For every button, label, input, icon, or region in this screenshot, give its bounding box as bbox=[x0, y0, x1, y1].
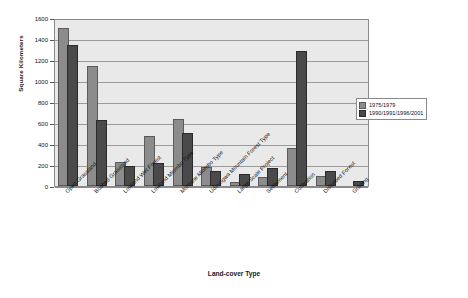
y-tick-label: 1600 bbox=[20, 16, 48, 22]
y-tick-label: 200 bbox=[20, 163, 48, 169]
legend-item: 1975/1979 bbox=[359, 101, 423, 109]
chart-legend: 1975/1979 1990/1991/1996/2001 bbox=[356, 98, 427, 120]
bar-group bbox=[198, 20, 227, 186]
bar bbox=[353, 181, 364, 186]
bar-group bbox=[55, 20, 84, 186]
y-tick-label: 1200 bbox=[20, 58, 48, 64]
bar bbox=[239, 174, 250, 186]
y-tick-label: 600 bbox=[20, 121, 48, 127]
legend-swatch-icon bbox=[359, 102, 366, 109]
bar bbox=[124, 166, 135, 186]
bar-group bbox=[284, 20, 313, 186]
bar-group bbox=[141, 20, 170, 186]
y-tick-label: 1400 bbox=[20, 37, 48, 43]
bars-layer bbox=[55, 20, 368, 186]
legend-item: 1990/1991/1996/2001 bbox=[359, 109, 423, 117]
y-tick-label: 800 bbox=[20, 100, 48, 106]
legend-item-label: 1990/1991/1996/2001 bbox=[369, 110, 423, 116]
legend-item-label: 1975/1979 bbox=[369, 102, 395, 108]
y-tick-label: 0 bbox=[20, 184, 48, 190]
bar bbox=[96, 120, 107, 186]
bar-group bbox=[170, 20, 199, 186]
y-tick-label: 1000 bbox=[20, 79, 48, 85]
bar bbox=[325, 171, 336, 186]
y-tick-label: 400 bbox=[20, 142, 48, 148]
y-tick-mark bbox=[50, 187, 54, 188]
gridline bbox=[55, 187, 368, 188]
bar bbox=[182, 133, 193, 186]
plot-area bbox=[54, 19, 369, 187]
bar bbox=[67, 45, 78, 186]
bar bbox=[153, 163, 164, 186]
bar-group bbox=[313, 20, 342, 186]
x-axis-title: Land-cover Type bbox=[0, 270, 468, 277]
bar-group bbox=[255, 20, 284, 186]
bar-chart: Square Kilometers 0200400600800100012001… bbox=[0, 0, 468, 298]
bar-group bbox=[112, 20, 141, 186]
bar bbox=[296, 51, 307, 186]
legend-swatch-icon bbox=[359, 110, 366, 117]
bar-group bbox=[84, 20, 113, 186]
y-axis-title: Square Kilometers bbox=[17, 14, 24, 114]
bar-group bbox=[227, 20, 256, 186]
bar bbox=[267, 168, 278, 186]
bar bbox=[210, 171, 221, 186]
